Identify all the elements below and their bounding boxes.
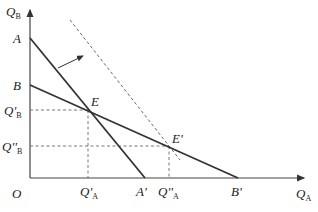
QB-dprime-label: Q''B xyxy=(2,139,22,156)
shift-arrow-icon xyxy=(58,56,83,68)
point-E-prime-label: E' xyxy=(171,131,183,146)
origin-label: O xyxy=(12,186,22,201)
QB-prime-label: Q'B xyxy=(4,103,22,120)
point-B-label: B xyxy=(13,78,21,93)
shifted-dashed-line xyxy=(70,20,180,160)
diagram-canvas: QB QA O A B E E' A' B' Q'B Q''B Q'A Q''A xyxy=(0,0,318,212)
line-AA-prime xyxy=(30,38,145,178)
point-A-prime-label: A' xyxy=(135,184,147,199)
guide-lines xyxy=(30,110,169,178)
point-A-label: A xyxy=(12,31,21,46)
point-B-prime-label: B' xyxy=(231,184,242,199)
QA-dprime-label: Q''A xyxy=(158,184,179,201)
y-axis-label: QB xyxy=(6,4,21,21)
x-axis-label: QA xyxy=(296,186,311,203)
point-E-label: E xyxy=(90,94,99,109)
QA-prime-label: Q'A xyxy=(80,184,98,201)
